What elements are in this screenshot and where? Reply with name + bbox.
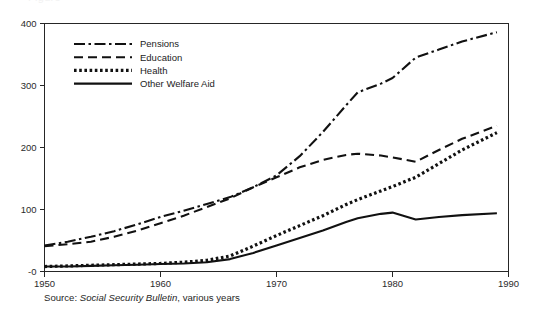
source-note: Source: Social Security Bulletin, variou… <box>44 292 240 303</box>
x-tick-label: 1980 <box>382 278 403 289</box>
source-publication: Social Security Bulletin <box>80 292 178 303</box>
axis-spines <box>45 24 509 272</box>
legend-label-other-welfare-aid: Other Welfare Aid <box>140 78 215 89</box>
legend-label-health: Health <box>140 65 167 76</box>
legend-label-pensions: Pensions <box>140 38 179 49</box>
plot-frame <box>45 24 509 272</box>
series-line-pensions <box>45 32 497 245</box>
x-axis-tick-labels: 19501960197019801990 <box>34 278 519 289</box>
series-line-education <box>45 126 497 246</box>
x-tick-label: 1960 <box>150 278 171 289</box>
x-tick-label: 1970 <box>266 278 287 289</box>
figure-container: Figure -0100200300400 195019601970198019… <box>0 0 537 319</box>
line-chart: -0100200300400 19501960197019801990 Pens… <box>0 0 537 319</box>
y-tick-label: 400 <box>21 18 37 29</box>
chart-legend: PensionsEducationHealthOther Welfare Aid <box>74 38 215 89</box>
y-tick-label: 100 <box>21 204 37 215</box>
chart-series-lines <box>45 32 497 266</box>
y-axis-tick-labels: -0100200300400 <box>21 18 37 277</box>
source-tail: , various years <box>177 292 239 303</box>
source-label: Source: <box>44 292 77 303</box>
y-tick-label: 200 <box>21 142 37 153</box>
x-tick-label: 1990 <box>498 278 519 289</box>
x-tick-label: 1950 <box>34 278 55 289</box>
y-tick-label: -0 <box>28 266 36 277</box>
legend-label-education: Education <box>140 52 182 63</box>
y-tick-label: 300 <box>21 80 37 91</box>
chart-axes <box>45 24 509 272</box>
